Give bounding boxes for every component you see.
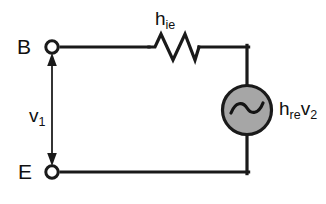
terminal-node-emitter	[46, 166, 58, 178]
circuit-schematic	[0, 0, 326, 204]
resistor-label-subscript: ie	[166, 18, 176, 32]
resistor-label-main: h	[155, 8, 166, 29]
wire-group	[61, 45, 249, 173]
ac-source-symbol	[223, 86, 272, 135]
source-label-main-h: h	[279, 98, 290, 119]
source-label-hre-v2: hrev2	[279, 99, 317, 118]
voltage-label-main: v	[29, 105, 39, 126]
terminal-label-emitter: E	[18, 161, 32, 182]
circuit-diagram-canvas: B E hie hrev2 v1	[0, 0, 326, 204]
voltage-label-subscript: 1	[39, 115, 46, 129]
voltage-arrowhead-up	[47, 53, 57, 66]
terminal-node-base	[46, 41, 58, 53]
source-label-subscript-2: 2	[310, 108, 317, 122]
source-label-main-v: v	[301, 98, 311, 119]
resistor-label-hie: hie	[155, 9, 175, 28]
terminal-label-base: B	[17, 36, 31, 57]
voltage-arrowhead-down	[47, 153, 57, 166]
voltage-label-v1: v1	[29, 106, 45, 125]
source-label-subscript-re: re	[290, 108, 301, 122]
voltage-arrow-v1	[47, 53, 57, 166]
resistor-symbol	[149, 34, 199, 60]
